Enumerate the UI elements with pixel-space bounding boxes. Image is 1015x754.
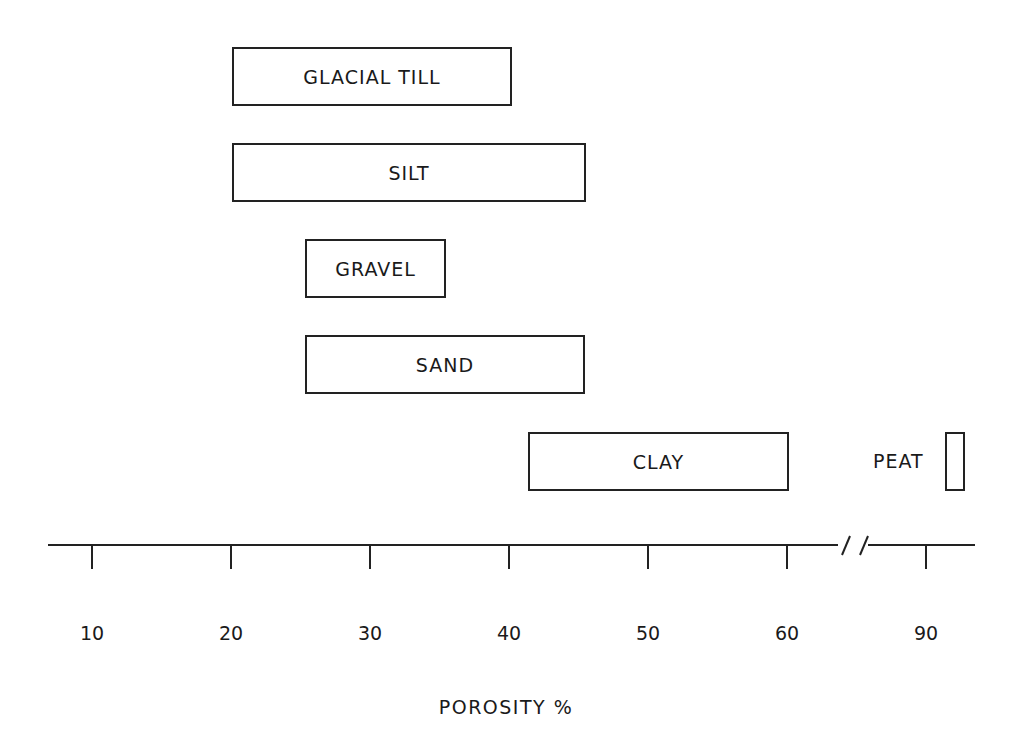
bar-label-clay: CLAY <box>633 451 684 473</box>
x-axis-title: POROSITY % <box>439 696 574 718</box>
tick-label-50: 50 <box>636 622 660 644</box>
range-bar-gravel: GRAVEL <box>305 239 446 298</box>
axis-break-icon <box>838 535 868 555</box>
bar-label-peat: PEAT <box>873 450 924 472</box>
range-bar-glacial-till: GLACIAL TILL <box>232 47 512 106</box>
bar-label-silt: SILT <box>388 162 429 184</box>
tick-label-10: 10 <box>80 622 104 644</box>
tick-label-30: 30 <box>358 622 382 644</box>
tick-label-90: 90 <box>914 622 938 644</box>
bar-label-glacial-till: GLACIAL TILL <box>303 66 440 88</box>
range-bar-peat <box>945 432 965 491</box>
range-bar-silt: SILT <box>232 143 586 202</box>
range-bar-clay: CLAY <box>528 432 789 491</box>
range-bar-sand: SAND <box>305 335 585 394</box>
tick-label-60: 60 <box>775 622 799 644</box>
bar-label-sand: SAND <box>416 354 474 376</box>
tick-label-20: 20 <box>219 622 243 644</box>
tick-label-40: 40 <box>497 622 521 644</box>
bar-label-gravel: GRAVEL <box>335 258 416 280</box>
